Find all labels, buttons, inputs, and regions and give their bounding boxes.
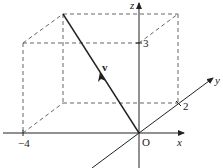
y-tick-label: 2 [183, 100, 189, 112]
z-axis-label: z [129, 0, 135, 11]
vector-label: v [102, 61, 108, 73]
x-tick-label: −4 [18, 137, 30, 149]
y-axis-label: y [214, 74, 220, 86]
y-axis [92, 78, 213, 168]
x-axis-label: x [176, 136, 182, 148]
vector-arrow-icon [98, 72, 106, 82]
origin-label: O [142, 136, 150, 148]
vector-diagram: v −4 3 2 O x y z [0, 0, 223, 168]
z-tick-label: 3 [143, 37, 149, 49]
